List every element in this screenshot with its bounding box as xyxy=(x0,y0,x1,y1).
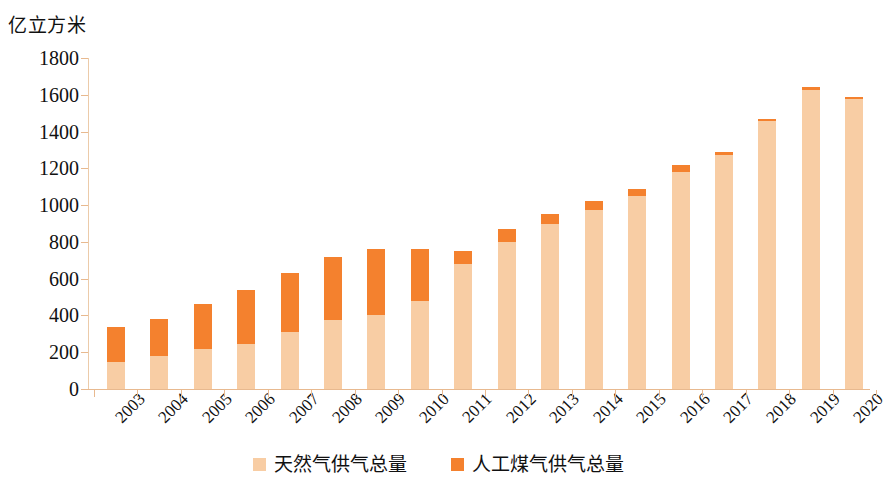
bar-segment-natural-gas[interactable] xyxy=(411,301,429,389)
x-axis-tick-label: 2007 xyxy=(285,390,321,426)
bar-segment-natural-gas[interactable] xyxy=(541,224,559,390)
y-axis-tick-label: 400 xyxy=(49,305,79,325)
bar-segment-natural-gas[interactable] xyxy=(758,121,776,389)
x-axis-tick xyxy=(355,390,356,397)
bar-segment-manufactured-gas[interactable] xyxy=(454,251,472,264)
bar-segment-manufactured-gas[interactable] xyxy=(672,165,690,172)
bar-segment-natural-gas[interactable] xyxy=(324,320,342,389)
y-axis-tick-label: 200 xyxy=(49,342,79,362)
bar-segment-natural-gas[interactable] xyxy=(150,356,168,389)
bar-2015[interactable] xyxy=(628,189,646,389)
bar-2018[interactable] xyxy=(758,119,776,389)
x-axis-tick xyxy=(442,390,443,397)
bar-2003[interactable] xyxy=(107,326,125,389)
x-axis-tick xyxy=(572,390,573,397)
x-axis-tick xyxy=(485,390,486,397)
x-axis-tick xyxy=(94,390,95,397)
bar-2011[interactable] xyxy=(454,251,472,389)
x-axis-tick xyxy=(789,390,790,397)
bar-segment-manufactured-gas[interactable] xyxy=(498,229,516,242)
bar-2016[interactable] xyxy=(672,165,690,389)
bar-segment-manufactured-gas[interactable] xyxy=(585,201,603,209)
y-axis-line xyxy=(88,58,89,390)
bar-segment-manufactured-gas[interactable] xyxy=(411,249,429,300)
y-axis-tick-label: 1800 xyxy=(39,48,79,68)
bar-segment-natural-gas[interactable] xyxy=(367,315,385,389)
bar-segment-manufactured-gas[interactable] xyxy=(628,189,646,196)
bar-2014[interactable] xyxy=(585,201,603,389)
y-axis-tick-label: 1200 xyxy=(39,158,79,178)
bar-segment-manufactured-gas[interactable] xyxy=(324,257,342,320)
bar-segment-manufactured-gas[interactable] xyxy=(758,119,776,122)
bar-segment-natural-gas[interactable] xyxy=(237,344,255,389)
y-axis-tick-label: 1000 xyxy=(39,195,79,215)
bar-segment-manufactured-gas[interactable] xyxy=(237,290,255,344)
bar-2020[interactable] xyxy=(845,97,863,389)
y-axis-tick xyxy=(81,315,88,316)
bar-segment-manufactured-gas[interactable] xyxy=(367,249,385,315)
x-axis-tick xyxy=(702,390,703,397)
x-axis-tick xyxy=(833,390,834,397)
bar-segment-manufactured-gas[interactable] xyxy=(802,87,820,90)
x-axis-tick xyxy=(311,390,312,397)
bar-segment-manufactured-gas[interactable] xyxy=(845,97,863,100)
bar-segment-manufactured-gas[interactable] xyxy=(715,152,733,156)
bar-segment-natural-gas[interactable] xyxy=(194,349,212,389)
bar-2013[interactable] xyxy=(541,214,559,389)
bar-segment-natural-gas[interactable] xyxy=(454,264,472,389)
bar-segment-manufactured-gas[interactable] xyxy=(541,214,559,223)
y-axis-tick xyxy=(81,205,88,206)
bar-2010[interactable] xyxy=(411,249,429,389)
x-axis-tick-label: 2003 xyxy=(112,390,148,426)
y-axis-tick xyxy=(81,242,88,243)
bar-2005[interactable] xyxy=(194,304,212,390)
x-axis-tick xyxy=(615,390,616,397)
bar-2007[interactable] xyxy=(281,273,299,389)
bar-segment-natural-gas[interactable] xyxy=(802,90,820,389)
x-axis-line xyxy=(88,389,870,390)
bar-segment-natural-gas[interactable] xyxy=(107,362,125,389)
bar-2009[interactable] xyxy=(367,249,385,389)
bar-segment-manufactured-gas[interactable] xyxy=(150,319,168,356)
x-axis-tick xyxy=(137,390,138,397)
y-axis-tick xyxy=(81,132,88,133)
x-axis-tick-label: 2013 xyxy=(546,390,582,426)
x-axis-tick-label: 2005 xyxy=(199,390,235,426)
legend-item-2[interactable]: 人工煤气供气总量 xyxy=(451,455,624,474)
legend-item-1[interactable]: 天然气供气总量 xyxy=(253,455,407,474)
bar-segment-manufactured-gas[interactable] xyxy=(107,327,125,363)
x-axis-tick-label: 2011 xyxy=(459,390,495,426)
bar-2008[interactable] xyxy=(324,257,342,389)
y-axis-tick xyxy=(81,279,88,280)
bar-2017[interactable] xyxy=(715,152,733,389)
x-axis-tick-label: 2006 xyxy=(242,390,278,426)
x-axis-tick xyxy=(528,390,529,397)
legend-label: 人工煤气供气总量 xyxy=(472,455,624,474)
x-axis-tick-label: 2004 xyxy=(155,390,191,426)
bar-segment-manufactured-gas[interactable] xyxy=(281,273,299,332)
bar-segment-natural-gas[interactable] xyxy=(628,196,646,389)
y-axis-tick-label: 1600 xyxy=(39,85,79,105)
bar-segment-natural-gas[interactable] xyxy=(585,210,603,389)
legend-label: 天然气供气总量 xyxy=(274,455,407,474)
bar-2012[interactable] xyxy=(498,229,516,389)
bar-2004[interactable] xyxy=(150,319,168,389)
bar-segment-natural-gas[interactable] xyxy=(498,242,516,389)
x-axis-tick-label: 2020 xyxy=(850,390,886,426)
y-axis-tick-label: 800 xyxy=(49,232,79,252)
x-axis-tick-label: 2019 xyxy=(807,390,843,426)
bar-2019[interactable] xyxy=(802,87,820,389)
x-axis-tick-label: 2018 xyxy=(763,390,799,426)
x-axis-tick-label: 2017 xyxy=(720,390,756,426)
bar-segment-natural-gas[interactable] xyxy=(672,172,690,389)
x-axis-tick-label: 2012 xyxy=(503,390,539,426)
bar-segment-natural-gas[interactable] xyxy=(281,332,299,389)
x-axis-tick xyxy=(876,390,877,397)
x-axis-tick-label: 2015 xyxy=(633,390,669,426)
bar-2006[interactable] xyxy=(237,290,255,389)
plot-area: 020040060080010001200140016001800 200320… xyxy=(88,58,870,390)
bar-segment-manufactured-gas[interactable] xyxy=(194,304,212,350)
bar-segment-natural-gas[interactable] xyxy=(715,155,733,389)
bar-segment-natural-gas[interactable] xyxy=(845,99,863,389)
